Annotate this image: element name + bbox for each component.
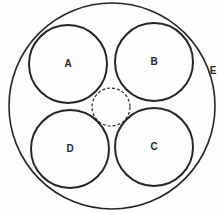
label-b: B bbox=[150, 57, 157, 67]
label-d: D bbox=[66, 144, 73, 154]
outer-circle-e bbox=[9, 3, 215, 209]
diagram-svg bbox=[0, 0, 223, 212]
diagram-canvas: A B C D E bbox=[0, 0, 223, 212]
label-e: E bbox=[210, 66, 217, 76]
label-a: A bbox=[64, 59, 71, 69]
label-c: C bbox=[150, 142, 157, 152]
